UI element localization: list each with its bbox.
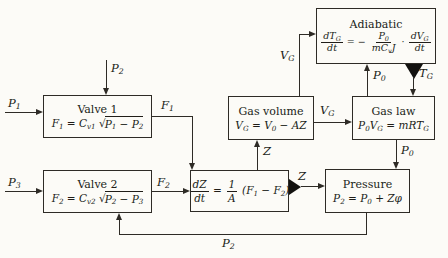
p2-feedback-arrowhead (116, 213, 122, 220)
gas-law-formula: P0VG = mRTG (358, 119, 429, 132)
valve2-formula: F2 = Cv2 √P2 − P3 (52, 192, 144, 205)
p3-label: P3 (8, 177, 21, 189)
f1-label: F1 (161, 100, 174, 112)
integrator-box: dZdt = 1A (F1 − F2) (190, 170, 289, 212)
z-up-label: Z (263, 146, 271, 158)
pressure-box: Pressure P2 = P0 + Zφ (325, 169, 410, 213)
adiabatic-title: Adiabatic (350, 18, 403, 32)
tg-label: TG (419, 68, 433, 80)
p2-top-label: P2 (111, 63, 124, 75)
p0-down-label: P0 (401, 145, 414, 157)
gas-volume-title: Gas volume (239, 105, 304, 119)
integrator-formula: dZdt = 1A (F1 − F2) (190, 178, 290, 203)
p2-feedback-label: P2 (222, 238, 235, 250)
adiabatic-box: Adiabatic dTGdt = − P0mCvJ · dVGdt (316, 8, 436, 64)
f1-arrowhead (189, 163, 195, 170)
vg-right-label: VG (320, 105, 335, 117)
adiabatic-formula: dTGdt = − P0mCvJ · dVGdt (320, 31, 431, 54)
p2-feedback-line-bottom (119, 234, 367, 235)
p2-top-line (106, 60, 107, 90)
z-up-line (257, 146, 258, 171)
pressure-formula: P2 = P0 + Zφ (333, 192, 402, 205)
valve2-box: Valve 2 F2 = Cv2 √P2 − P3 (43, 170, 152, 213)
p0-up-arrowhead (364, 64, 370, 71)
z-out-label: Z (298, 171, 306, 183)
vg-up-line-v (299, 34, 300, 96)
p0-down-arrowhead (393, 162, 399, 169)
f1-line-h (152, 116, 193, 117)
f2-arrowhead (183, 188, 190, 194)
gas-law-title: Gas law (372, 105, 416, 119)
p2-feedback-line-right (366, 213, 367, 235)
f1-line-v (192, 116, 193, 165)
p0-up-line (367, 69, 368, 96)
p3-line (5, 191, 37, 192)
p3-arrowhead (36, 188, 43, 194)
z-out-arrowhead (318, 183, 325, 189)
z-up-arrowhead (254, 140, 260, 147)
p0-up-label: P0 (373, 70, 386, 82)
p0-down-line (396, 140, 397, 163)
vg-right-line (314, 122, 346, 123)
vg-right-arrowhead (345, 119, 352, 125)
f2-line (152, 191, 184, 192)
valve1-formula: F1 = Cv1 √P1 − P2 (52, 117, 144, 130)
f2-label: F2 (157, 177, 170, 189)
diagram-canvas: Valve 1 F1 = Cv1 √P1 − P2 Valve 2 F2 = C… (0, 0, 448, 258)
vg-up-arrowhead (309, 31, 316, 37)
p1-label: P1 (8, 98, 21, 110)
gas-law-box: Gas law P0VG = mRTG (352, 96, 435, 140)
z-out-line (301, 186, 319, 187)
p2-top-arrowhead (103, 88, 109, 95)
p1-arrowhead (36, 109, 43, 115)
p1-line (5, 112, 37, 113)
pressure-title: Pressure (343, 178, 392, 192)
gas-volume-box: Gas volume VG = V0 − AZ (228, 96, 314, 140)
gas-volume-formula: VG = V0 − AZ (235, 119, 306, 132)
tg-arrowhead (410, 89, 416, 96)
valve1-box: Valve 1 F1 = Cv1 √P1 − P2 (43, 95, 152, 138)
p2-feedback-line-left (119, 219, 120, 235)
vg-up-label: VG (280, 50, 295, 62)
